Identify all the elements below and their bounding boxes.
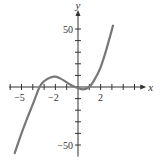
x-tick-label: 2	[98, 92, 103, 103]
y-tick-label: 50	[63, 24, 73, 35]
series-line-f	[15, 26, 113, 154]
chart: x y −5−2250−50	[0, 0, 161, 166]
x-tick-label: −5	[14, 92, 25, 103]
y-tick-label: −50	[57, 140, 73, 151]
y-axis-label: y	[75, 0, 81, 11]
x-axis-label: x	[147, 81, 153, 93]
x-tick-label: −2	[48, 92, 59, 103]
x-axis-arrow-icon	[140, 85, 146, 90]
